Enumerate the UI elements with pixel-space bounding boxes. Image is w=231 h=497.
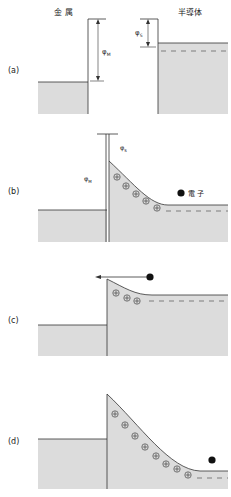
phi-s-label: φS bbox=[135, 29, 143, 38]
phi-m-label: φM bbox=[84, 175, 92, 184]
metal-fill bbox=[38, 439, 107, 489]
semiconductor-band-bending-fill bbox=[109, 161, 228, 242]
phi-s-label: φS bbox=[120, 144, 127, 153]
panel-c-label: (c) bbox=[8, 316, 19, 325]
metal-semiconductor-band-diagram: 金 属 半導体 (a) φM φS (b) φM φS bbox=[0, 0, 231, 497]
metal-fill bbox=[38, 210, 107, 242]
metal-header: 金 属 bbox=[54, 7, 73, 17]
panel-a: (a) φM φS bbox=[8, 19, 228, 114]
electron-legend-label: 電 子 bbox=[188, 190, 204, 198]
semiconductor-vacuum-edge bbox=[140, 19, 158, 114]
semiconductor-header: 半導体 bbox=[178, 7, 202, 17]
metal-vacuum-edge bbox=[88, 19, 106, 114]
arrow-head-icon bbox=[95, 275, 101, 279]
panel-a-label: (a) bbox=[8, 66, 19, 75]
semiconductor-band-bending-fill bbox=[107, 279, 228, 356]
phi-m-label: φM bbox=[102, 48, 111, 57]
panel-b-label: (b) bbox=[8, 187, 19, 196]
panel-b: (b) φM φS 電 子 bbox=[8, 134, 228, 242]
semiconductor-fill bbox=[158, 43, 228, 114]
electron-icon bbox=[146, 273, 153, 280]
electron-icon bbox=[177, 189, 184, 196]
panel-d: (d) bbox=[8, 394, 228, 489]
metal-fill bbox=[38, 325, 107, 356]
panel-d-label: (d) bbox=[8, 437, 19, 446]
semiconductor-band-bending-fill bbox=[107, 394, 228, 489]
electron-icon bbox=[208, 456, 215, 463]
panel-c: (c) bbox=[8, 273, 228, 356]
metal-fermi-fill bbox=[38, 82, 88, 114]
